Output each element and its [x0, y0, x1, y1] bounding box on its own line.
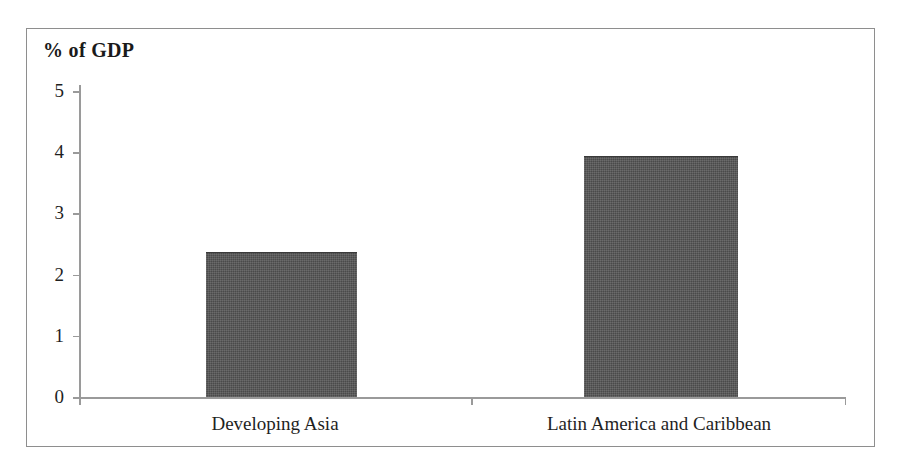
y-axis-tick-label-1: 1 — [55, 324, 65, 346]
chart-title: % of GDP — [43, 39, 134, 62]
y-axis-tick-label-5: 5 — [55, 80, 65, 102]
x-axis-line — [79, 397, 846, 399]
bar-latin-america-and-caribbean — [584, 156, 738, 398]
y-axis-tick-1: 1 — [73, 336, 80, 338]
y-axis-tick-label-2: 2 — [55, 263, 65, 285]
x-axis-tick-divider — [471, 397, 473, 405]
y-axis-tick-5: 5 — [73, 91, 80, 93]
y-axis-line — [79, 85, 81, 397]
x-axis-label-latin-america-and-caribbean: Latin America and Caribbean — [547, 413, 771, 435]
y-axis-tick-2: 2 — [73, 275, 80, 277]
bar-developing-asia — [206, 252, 357, 397]
x-axis-label-developing-asia: Developing Asia — [211, 413, 338, 435]
chart-frame: % of GDP 5 4 3 2 1 0 Developing Asi — [26, 28, 875, 447]
y-axis-tick-label-0: 0 — [55, 386, 65, 408]
x-axis-tick-end — [845, 397, 847, 405]
y-axis-tick-3: 3 — [73, 213, 80, 215]
y-axis-tick-label-3: 3 — [55, 202, 65, 224]
y-axis-tick-4: 4 — [73, 152, 80, 154]
y-axis-tick-label-4: 4 — [55, 141, 65, 163]
plot-area: 5 4 3 2 1 0 Developing Asia Latin Americ… — [79, 91, 846, 397]
x-axis-tick-start — [79, 397, 81, 405]
